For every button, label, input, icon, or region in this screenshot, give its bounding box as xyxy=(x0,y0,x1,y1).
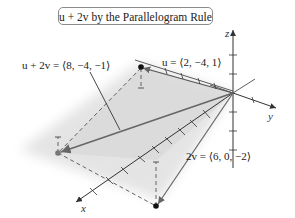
y-axis-label: y xyxy=(267,110,273,122)
z-axis-label: z xyxy=(224,27,230,39)
sum-label: u + 2v = ⟨8, −4, −1⟩ xyxy=(22,59,110,71)
y-axis xyxy=(233,93,276,108)
vector-diagram: u + 2v = ⟨8, −4, −1⟩ u = ⟨2, −4, 1⟩ 2v =… xyxy=(0,0,295,218)
two-v-tip-point xyxy=(153,203,159,209)
sum-tip-point xyxy=(55,150,61,156)
u-tip-point xyxy=(138,64,144,70)
x-axis-label: x xyxy=(80,202,86,214)
u-label: u = ⟨2, −4, 1⟩ xyxy=(162,56,222,68)
two-v-label: 2v = ⟨6, 0, −2⟩ xyxy=(186,150,251,162)
y-axis-back xyxy=(233,79,255,93)
